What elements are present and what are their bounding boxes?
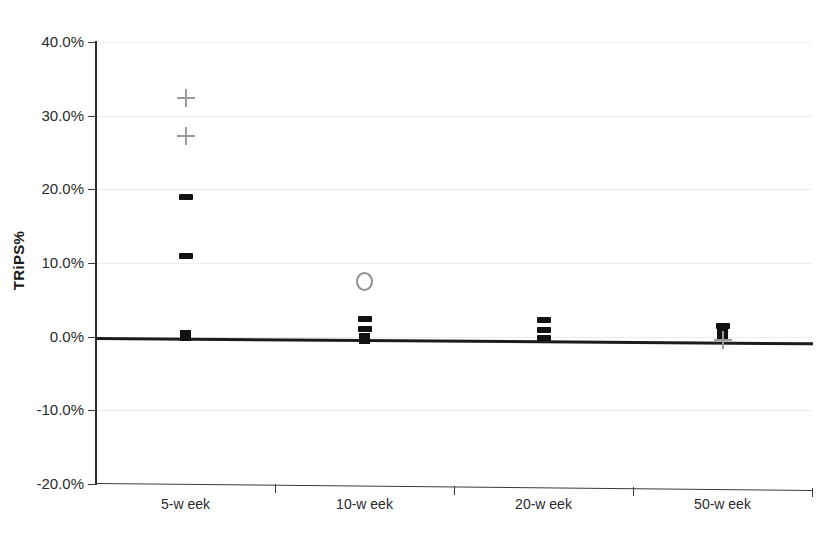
x-tick-label: 5-w eek <box>116 496 256 512</box>
data-point-open-circle <box>356 272 373 291</box>
x-tick-mark <box>812 488 813 497</box>
y-tick-mark <box>88 42 96 43</box>
data-point-plus <box>177 127 195 145</box>
y-tick-label: -20.0% <box>6 475 84 492</box>
data-point-dash <box>179 194 193 200</box>
y-tick-mark <box>88 484 96 485</box>
gridline <box>96 189 812 190</box>
zero-reference-line <box>96 337 813 345</box>
x-tick-mark <box>633 487 634 496</box>
data-point-dash <box>358 326 372 332</box>
x-tick-label: 10-w eek <box>295 496 435 512</box>
y-tick: 20.0% <box>0 180 84 198</box>
data-point-dash <box>537 335 551 341</box>
gridline <box>96 263 812 264</box>
data-point-dash <box>537 327 551 333</box>
y-tick-label: -10.0% <box>6 401 84 418</box>
data-point-dash <box>358 316 372 322</box>
gridline <box>96 42 812 43</box>
y-tick-mark <box>88 410 96 411</box>
data-point-plus <box>177 89 195 107</box>
x-tick-mark <box>275 484 276 493</box>
y-tick-mark <box>88 116 96 117</box>
y-tick-label: 30.0% <box>6 107 84 124</box>
y-axis-ticks: 40.0%30.0%20.0%10.0%0.0%-10.0%-20.0% <box>0 0 84 536</box>
y-tick-label: 20.0% <box>6 180 84 197</box>
y-tick-label: 40.0% <box>6 33 84 50</box>
y-tick: 0.0% <box>0 328 84 346</box>
y-tick: 40.0% <box>0 33 84 51</box>
y-tick: 30.0% <box>0 107 84 125</box>
x-tick-mark <box>454 486 455 495</box>
data-point-square <box>359 333 370 344</box>
y-tick-label: 10.0% <box>6 254 84 271</box>
data-point-dash <box>537 317 551 323</box>
x-tick-label: 50-w eek <box>653 496 793 512</box>
data-point-dash <box>179 253 193 259</box>
data-point-square <box>180 330 191 341</box>
y-tick-mark <box>88 189 96 190</box>
data-point-plus <box>714 331 732 349</box>
y-tick-mark <box>88 263 96 264</box>
y-tick: -20.0% <box>0 475 84 493</box>
y-tick-mark <box>88 337 96 338</box>
gridline <box>96 410 812 411</box>
y-tick: -10.0% <box>0 401 84 419</box>
chart-container: TRiPS% 40.0%30.0%20.0%10.0%0.0%-10.0%-20… <box>0 0 818 536</box>
y-tick-label: 0.0% <box>6 328 84 345</box>
y-tick: 10.0% <box>0 254 84 272</box>
gridline <box>96 116 812 117</box>
x-tick-label: 20-w eek <box>474 496 614 512</box>
